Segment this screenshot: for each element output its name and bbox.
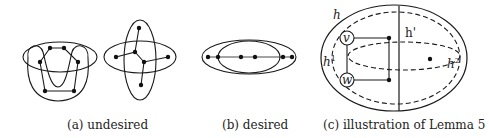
hyperedge-h-outer: [321, 5, 467, 111]
caption-a: (a) undesired: [67, 118, 148, 132]
label-w: w: [342, 73, 353, 87]
hyperedge-h-dashed-inner: [332, 12, 460, 104]
hyperedge-wavy-region: [28, 46, 89, 101]
hyperedge-ellipse: [23, 42, 97, 72]
label-v: v: [343, 31, 350, 45]
caption-b: (b) desired: [222, 118, 288, 132]
panel-a-right-diagram: [104, 20, 176, 100]
label-h: h: [333, 8, 341, 22]
panel-a-left-diagram: [23, 42, 97, 101]
caption-c: (c) illustration of Lemma 5: [323, 118, 485, 132]
label-h1: h1: [323, 54, 336, 69]
panel-c-diagram: [321, 5, 467, 111]
tree-edges-2: [135, 52, 168, 62]
tree-edges: [40, 48, 78, 91]
hyperedge-h2-dashed: [348, 42, 460, 70]
label-h-prime: h': [405, 26, 416, 40]
